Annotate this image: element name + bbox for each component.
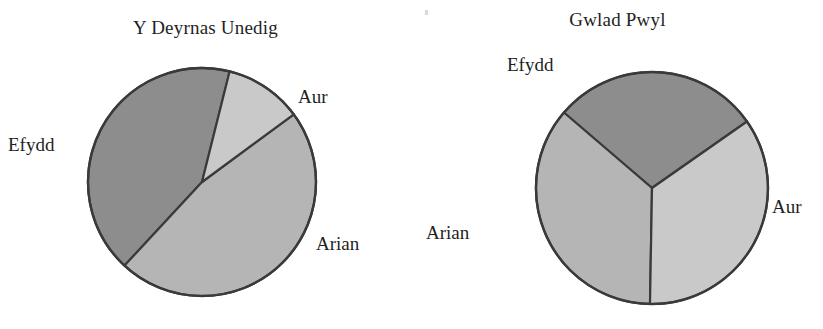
pie-label-pl-arian: Arian [426,222,469,244]
chart-panel-uk: Y Deyrnas Unedig Efydd Aur Arian [0,0,411,329]
pie-label-uk-aur: Aur [298,86,328,108]
pie-label-uk-arian: Arian [316,233,359,255]
pie-label-uk-efydd: Efydd [8,134,54,156]
pie-chart-uk [0,0,411,329]
pie-label-pl-aur: Aur [772,196,802,218]
chart-panel-pl: Gwlad Pwyl Efydd Aur Arian [412,0,823,329]
pie-chart-pl [412,0,823,329]
pie-label-pl-efydd: Efydd [507,54,553,76]
pie-chart-figure: Y Deyrnas Unedig Efydd Aur Arian Gwlad P… [0,0,823,329]
